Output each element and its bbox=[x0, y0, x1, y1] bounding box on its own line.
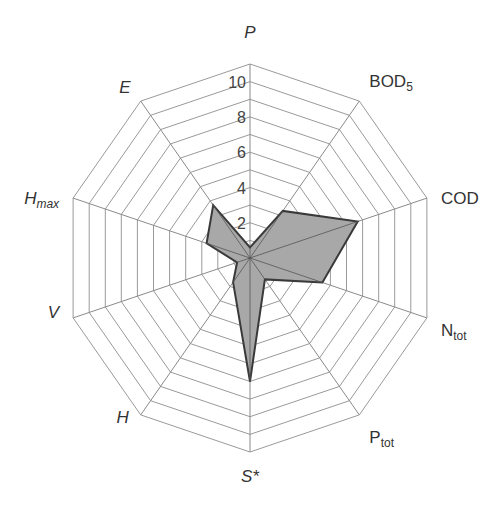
tick-label: 2 bbox=[237, 215, 246, 232]
radial-tick-labels: 246810 bbox=[228, 74, 246, 232]
data-series bbox=[207, 205, 358, 381]
radar-chart: 246810 PBOD5CODNtotPtotS*HVHmaxE bbox=[0, 0, 500, 513]
tick-label: 6 bbox=[237, 144, 246, 161]
series-area bbox=[207, 205, 358, 381]
axis-label-hmax: Hmax bbox=[24, 189, 60, 211]
axis-label-v: V bbox=[48, 303, 61, 322]
axis-label-s-star: S* bbox=[241, 467, 260, 486]
axis-label-ntot: Ntot bbox=[441, 321, 467, 343]
tick-label: 10 bbox=[228, 74, 246, 91]
axis-label-ptot: Ptot bbox=[369, 428, 394, 450]
axis-label-p: P bbox=[244, 23, 256, 42]
axis-spoke bbox=[73, 258, 250, 318]
axis-label-cod: COD bbox=[441, 189, 479, 208]
axis-label-h: H bbox=[116, 408, 129, 427]
tick-label: 4 bbox=[237, 180, 246, 197]
tick-label: 8 bbox=[237, 109, 246, 126]
axis-label-bod5: BOD5 bbox=[369, 72, 413, 94]
axis-label-e: E bbox=[119, 78, 131, 97]
